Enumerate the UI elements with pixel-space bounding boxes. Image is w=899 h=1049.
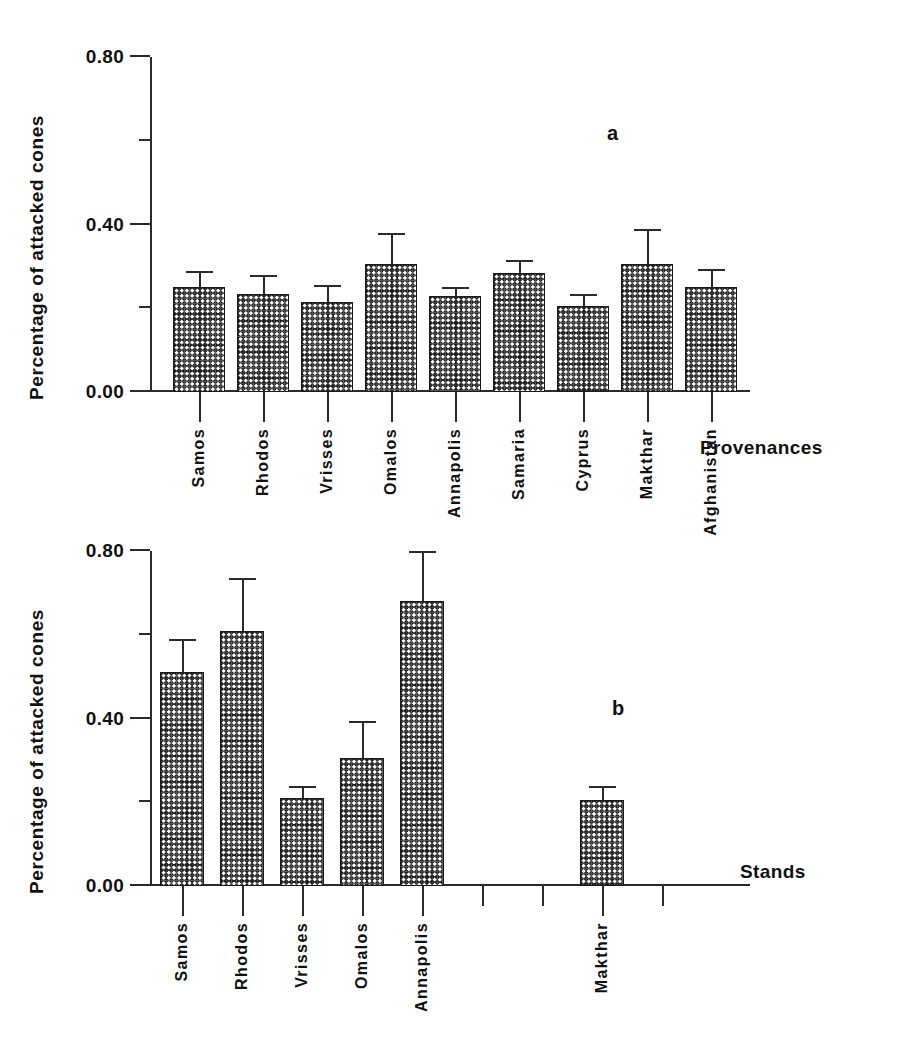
bar [621,264,673,392]
error-bar-stem [519,262,521,272]
error-bar-cap [169,639,196,641]
x-tick-a-0 [199,392,201,422]
bar [160,672,204,886]
error-bar-cap [570,294,597,296]
x-tick-b-1 [242,886,244,916]
error-bar-cap [250,275,277,277]
y-tick-a-3 [139,139,150,141]
x-tick-label-a-7: Makthar [638,428,656,499]
x-tick-b-2 [302,886,304,916]
y-tick-label-b-4: 0.80 [86,540,124,562]
x-tick-label-a-6: Cyprus [574,428,592,492]
error-bar-cap [409,551,436,553]
bar [400,601,444,886]
bar [365,264,417,392]
figure: Percentage of attacked cones 0.000.400.8… [0,0,899,1049]
x-tick-b-6 [542,886,544,906]
error-bar-stem [199,273,201,288]
panel-a: Percentage of attacked cones 0.000.400.8… [0,0,899,530]
bar [340,758,384,886]
bar [429,296,481,392]
error-bar-cap [378,233,405,235]
x-tick-label-a-5: Samaria [510,428,528,500]
y-tick-label-b-0: 0.00 [86,875,124,897]
x-tick-a-6 [583,392,585,422]
y-tick-label-a-2: 0.40 [86,214,124,236]
bar [220,631,264,886]
error-bar-stem [711,271,713,288]
panel-label-a: a [607,122,618,145]
panel-label-b: b [612,697,624,720]
x-tick-a-1 [263,392,265,422]
y-axis-line-b [150,551,152,886]
x-tick-a-5 [519,392,521,422]
bar [280,798,324,886]
x-tick-b-4 [422,886,424,916]
error-bar-stem [182,641,184,672]
x-tick-label-a-2: Vrisses [318,428,336,494]
x-tick-a-4 [455,392,457,422]
x-tick-b-5 [482,886,484,906]
y-tick-a-1 [139,306,150,308]
error-bar-stem [242,580,244,630]
x-tick-label-b-4: Annapolis [413,922,431,1012]
x-tick-a-3 [391,392,393,422]
y-tick-b-0 [130,884,150,886]
y-tick-label-a-4: 0.80 [86,46,124,68]
y-axis-line-a [150,57,152,392]
plot-area-a: 0.000.400.80SamosRhodosVrissesOmalosAnna… [150,57,750,392]
bar [685,287,737,392]
x-tick-label-b-7: Makthar [593,922,611,993]
error-bar-cap [698,269,725,271]
x-tick-a-8 [711,392,713,422]
x-tick-b-7 [602,886,604,916]
x-tick-label-b-1: Rhodos [233,922,251,990]
y-tick-a-0 [130,390,150,392]
error-bar-cap [442,287,469,289]
y-tick-b-3 [139,633,150,635]
error-bar-stem [391,235,393,264]
error-bar-cap [186,271,213,273]
x-tick-label-b-0: Samos [173,922,191,981]
error-bar-stem [455,289,457,295]
y-tick-b-4 [130,549,150,551]
x-tick-label-a-1: Rhodos [254,428,272,496]
plot-area-b: 0.000.400.80SamosRhodosVrissesOmalosAnna… [150,551,750,886]
x-tick-label-b-2: Vrisses [293,922,311,988]
x-axis-title-b: Stands [740,861,806,883]
x-tick-b-0 [182,886,184,916]
error-bar-cap [589,786,616,788]
error-bar-cap [314,285,341,287]
x-tick-b-8 [662,886,664,906]
x-tick-a-2 [327,392,329,422]
x-axis-title-a: Provenances [700,437,823,459]
error-bar-stem [302,788,304,798]
bar [301,302,353,392]
y-tick-b-2 [130,717,150,719]
x-tick-label-b-3: Omalos [353,922,371,989]
bar [173,287,225,392]
y-axis-title-a: Percentage of attacked cones [26,115,48,400]
y-tick-label-b-2: 0.40 [86,708,124,730]
error-bar-stem [422,553,424,601]
error-bar-cap [289,786,316,788]
error-bar-stem [602,788,604,801]
error-bar-cap [349,721,376,723]
error-bar-cap [634,229,661,231]
bar [557,306,609,392]
bar [580,800,624,886]
x-tick-b-3 [362,886,364,916]
y-axis-title-b: Percentage of attacked cones [26,609,48,894]
y-tick-label-a-0: 0.00 [86,381,124,403]
panel-b: Percentage of attacked cones 0.000.400.8… [0,494,899,1049]
bar [237,294,289,392]
error-bar-stem [647,231,649,265]
error-bar-stem [362,723,364,759]
y-tick-a-2 [130,223,150,225]
y-tick-a-4 [130,55,150,57]
bar [493,273,545,392]
x-tick-a-7 [647,392,649,422]
error-bar-stem [263,277,265,294]
error-bar-stem [327,287,329,302]
x-tick-label-a-3: Omalos [382,428,400,495]
